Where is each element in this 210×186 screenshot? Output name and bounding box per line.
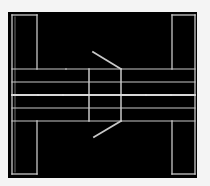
center-dot-1 bbox=[62, 94, 64, 96]
center-dot-4 bbox=[145, 94, 147, 96]
center-dot-0 bbox=[37, 94, 39, 96]
line-diagram bbox=[0, 0, 210, 186]
center-dot-5 bbox=[170, 94, 172, 96]
center-dot-3 bbox=[120, 94, 122, 96]
center-dot-2 bbox=[88, 94, 90, 96]
